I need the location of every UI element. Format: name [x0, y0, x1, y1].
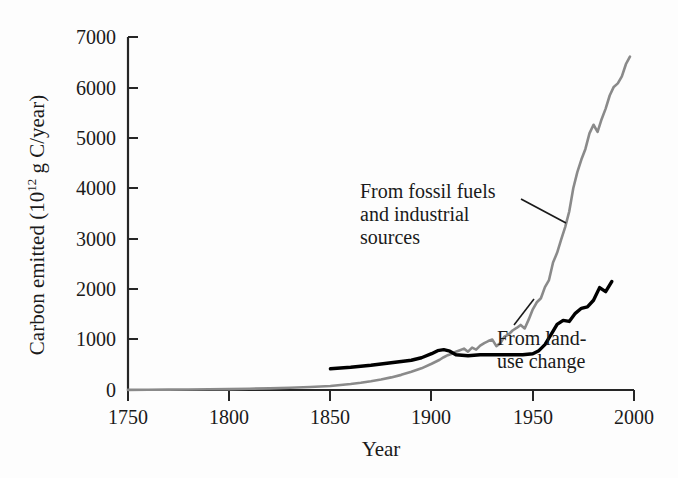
y-axis-label-prefix: Carbon emitted (10 [25, 192, 49, 355]
y-axis-ticks [128, 37, 138, 390]
y-axis-label-exponent: 12 [24, 179, 39, 192]
x-axis-label: Year [128, 437, 634, 462]
y-axis-label-suffix: g C/year) [25, 95, 49, 179]
x-tick-label-2000: 2000 [589, 407, 678, 427]
x-tick-label-1750: 1750 [83, 407, 173, 427]
x-tick-label-1950: 1950 [488, 407, 578, 427]
x-tick-label-1850: 1850 [285, 407, 375, 427]
land-use-annotation: From land- use change [497, 327, 586, 373]
y-axis-label: Carbon emitted (1012 g C/year) [24, 25, 50, 425]
fossil-fuels-annotation: From fossil fuels and industrial sources [360, 180, 496, 249]
x-tick-label-1900: 1900 [386, 407, 476, 427]
carbon-emissions-chart: 0 1000 2000 3000 4000 5000 6000 7000 175… [0, 0, 678, 478]
x-axis-ticks [128, 390, 634, 401]
x-tick-label-1800: 1800 [184, 407, 274, 427]
fossil-fuels-leader-line [521, 199, 566, 223]
